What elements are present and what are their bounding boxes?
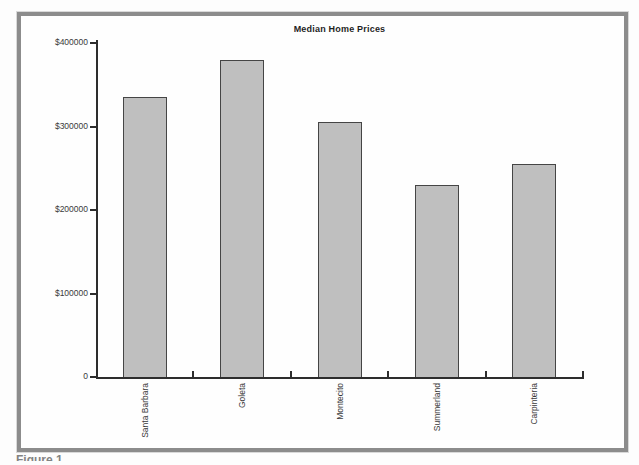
x-category-label: Santa Barbara [139,383,151,447]
x-category-label: Montecito [334,383,346,447]
y-tick-label: 0 [40,371,88,381]
y-tick-label: $400000 [40,37,88,47]
x-category-label: Goleta [236,383,248,447]
y-axis-tick [90,376,96,378]
y-axis-tick [90,42,96,44]
x-category-label: Summerland [431,383,443,447]
bar-goleta [220,60,264,377]
y-axis-tick [90,293,96,295]
y-tick-label: $300000 [40,121,88,131]
y-axis-tick [90,209,96,211]
bar-santa-barbara [123,97,167,377]
chart-title: Median Home Prices [96,24,583,34]
x-category-label: Carpinteria [528,383,540,447]
y-axis-tick [90,126,96,128]
x-axis-tick [387,371,389,377]
bar-montecito [318,122,362,377]
x-axis-tick [290,371,292,377]
caption-text: Figure 1 [16,453,106,461]
scanned-page: Median Home Prices $400000$300000$200000… [0,0,639,465]
y-tick-label: $200000 [40,204,88,214]
x-axis-tick [192,371,194,377]
caption-fragment: Figure 1 [16,453,106,461]
y-tick-label: $100000 [40,288,88,298]
y-axis [96,40,98,377]
x-axis-tick [582,371,584,377]
bar-carpinteria [512,164,556,377]
x-axis-tick [485,371,487,377]
bar-summerland [415,185,459,377]
x-axis [96,377,584,379]
